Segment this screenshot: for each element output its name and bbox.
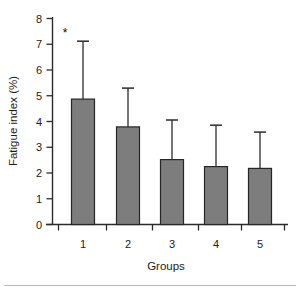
figure-panel: 0 1 2 3 4 5 6 7 8 1 2 3 4 5	[0, 0, 300, 297]
y-tick-label: 8	[36, 13, 42, 25]
significance-asterisk: *	[63, 26, 68, 40]
x-axis-title: Groups	[147, 260, 185, 272]
y-tick-label: 3	[36, 141, 42, 153]
x-tick-label: 2	[125, 238, 131, 250]
x-tick-label: 3	[169, 238, 175, 250]
y-tick-label: 5	[36, 90, 42, 102]
y-tick-label: 4	[36, 116, 42, 128]
bar-group-5	[249, 168, 272, 224]
y-tick-label: 6	[36, 64, 42, 76]
bar-group-1	[72, 99, 95, 224]
x-tick-label: 4	[213, 238, 219, 250]
error-bars-group	[77, 41, 266, 168]
y-axis-ticks	[47, 19, 53, 225]
y-tick-label: 2	[36, 167, 42, 179]
y-axis-title: Fatigue index (%)	[7, 76, 19, 166]
bar-group-2	[117, 127, 140, 225]
x-axis-ticks	[59, 225, 285, 231]
x-tick-label: 1	[80, 238, 86, 250]
bar-group-4	[205, 167, 228, 225]
x-tick-label: 5	[257, 238, 263, 250]
x-axis-tick-labels: 1 2 3 4 5	[80, 238, 263, 250]
y-axis-tick-labels: 0 1 2 3 4 5 6 7 8	[36, 13, 42, 231]
bars-group	[72, 99, 272, 224]
y-tick-label: 0	[36, 219, 42, 231]
caption-divider	[4, 285, 296, 286]
y-tick-label: 7	[36, 38, 42, 50]
y-tick-label: 1	[36, 193, 42, 205]
bar-group-3	[161, 160, 184, 225]
bar-chart: 0 1 2 3 4 5 6 7 8 1 2 3 4 5	[0, 0, 300, 282]
